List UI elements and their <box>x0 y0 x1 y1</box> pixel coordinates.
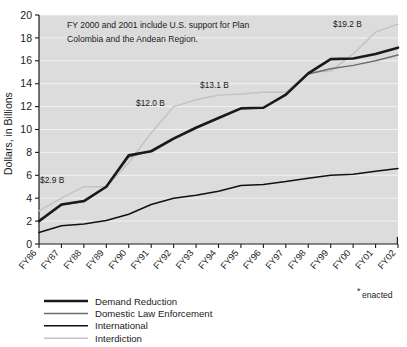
drug-budget-line-chart: 02468101214161820 FY86FY87FY88FY89FY90FY… <box>0 0 407 347</box>
callout-12-0-b: $12.0 B <box>136 98 165 108</box>
y-axis-tick-label: 18 <box>20 32 32 44</box>
chart-canvas: 02468101214161820 FY86FY87FY88FY89FY90FY… <box>0 0 407 347</box>
enacted-footnote-text: enacted <box>362 290 393 300</box>
callout-19-2-b: $19.2 B <box>333 19 362 29</box>
y-axis-title: Dollars, in Billions <box>2 92 14 175</box>
legend-label-interdiction: Interdiction <box>95 333 142 344</box>
annotation-note-line2: Colombia and the Andean Region. <box>67 34 198 44</box>
legend-label-international: International <box>95 320 148 331</box>
callout-13-1-b: $13.1 B <box>200 80 229 90</box>
callout-2-9-b: $2.9 B <box>40 175 65 185</box>
y-axis-tick-label: 4 <box>26 192 32 204</box>
legend-label-demand-reduction: Demand Reduction <box>95 296 177 307</box>
y-axis-tick-label: 20 <box>20 9 32 21</box>
y-axis-tick-label: 16 <box>20 54 32 66</box>
y-axis-tick-label: 12 <box>20 100 32 112</box>
y-axis-tick-label: 6 <box>26 169 32 181</box>
y-axis-tick-label: 0 <box>26 238 32 250</box>
annotation-note-line1: FY 2000 and 2001 include U.S. support fo… <box>67 20 250 30</box>
legend-label-domestic-law-enforcement: Domestic Law Enforcement <box>95 308 213 319</box>
y-axis-tick-label: 14 <box>20 77 32 89</box>
y-axis-tick-label: 10 <box>20 123 32 135</box>
y-axis-tick-label: 2 <box>26 215 32 227</box>
enacted-footnote-marker: * <box>357 286 361 296</box>
y-axis-tick-label: 8 <box>26 146 32 158</box>
